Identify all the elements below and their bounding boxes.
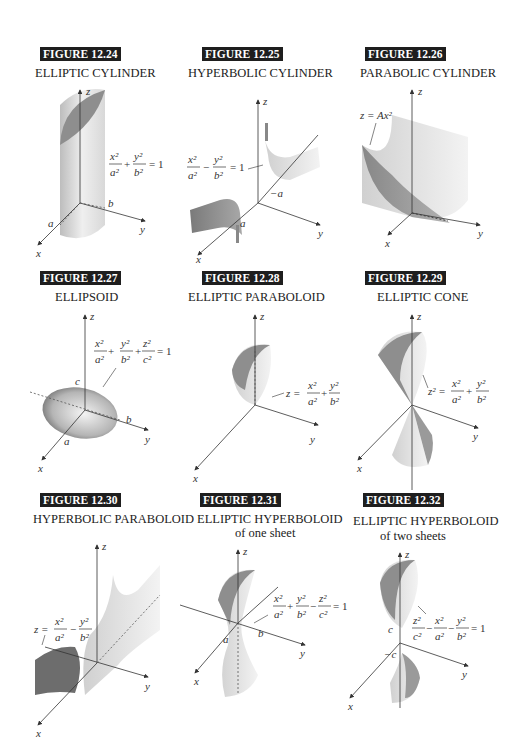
hyperbolic-paraboloid-plot: z y x z = x² a² − y² b² <box>0 535 170 705</box>
equation: z = x² a² + y² b² <box>285 379 340 407</box>
svg-text:b²: b² <box>134 166 144 178</box>
figure-title: ELLIPTIC HYPERBOLOID <box>353 514 498 528</box>
svg-text:b²: b² <box>330 395 340 407</box>
svg-text:z =: z = <box>285 387 300 399</box>
svg-text:z: z <box>259 310 265 322</box>
svg-text:a²: a² <box>55 631 65 643</box>
svg-text:x²: x² <box>187 153 197 165</box>
svg-text:y: y <box>299 647 305 659</box>
svg-text:+: + <box>466 385 472 397</box>
figure-title: HYPERBOLIC CYLINDER <box>188 66 333 80</box>
figure-title: ELLIPTIC CYLINDER <box>35 66 155 80</box>
figure-title: ELLIPTIC CONE <box>377 290 468 304</box>
hyperboloid-one-sheet-plot: z y x a b x² a² + y² b² − z² c² = 1 <box>170 545 340 715</box>
svg-text:−c: −c <box>384 648 396 660</box>
svg-text:z: z <box>101 540 107 552</box>
figure-label: FIGURE 12.29 <box>365 271 446 285</box>
svg-text:x²: x² <box>54 615 64 627</box>
svg-text:x²: x² <box>273 592 283 604</box>
svg-text:x²: x² <box>307 379 317 391</box>
figure-title: HYPERBOLIC PARABOLOID <box>33 512 194 526</box>
equation: z² = x² a² + y² b² <box>427 377 489 405</box>
svg-text:z: z <box>242 545 248 557</box>
svg-text:c: c <box>75 375 80 387</box>
figure-title: ELLIPTIC HYPERBOLOID <box>197 512 342 526</box>
svg-text:y²: y² <box>329 379 339 391</box>
svg-text:x²: x² <box>94 337 104 349</box>
y-axis-label: y <box>139 223 145 235</box>
svg-text:z: z <box>404 548 410 560</box>
svg-text:c²: c² <box>143 353 152 365</box>
svg-text:+: + <box>108 345 114 357</box>
svg-text:c: c <box>388 623 393 635</box>
z-axis-label: z <box>85 85 91 97</box>
svg-text:x²: x² <box>451 377 461 389</box>
figure-label: FIGURE 12.26 <box>365 47 446 61</box>
parabolic-cylinder-plot: z y x z = Ax² <box>340 85 508 245</box>
svg-text:x: x <box>356 462 362 474</box>
svg-text:y: y <box>144 433 150 445</box>
svg-text:b²: b² <box>457 630 467 642</box>
svg-text:y: y <box>309 433 315 445</box>
svg-text:a: a <box>223 633 229 645</box>
hyperbolic-cylinder-plot: z y x a −a x² a² − y² b² = 1 <box>170 85 340 245</box>
svg-text:c²: c² <box>319 608 328 620</box>
svg-text:x: x <box>37 462 43 474</box>
figure-subtitle: of two sheets <box>380 529 446 543</box>
hyperboloid-two-sheets-plot: z y x c −c z² c² − x² a² − y² b² = 1 <box>340 548 508 718</box>
svg-text:y²: y² <box>213 153 223 165</box>
figure-label: FIGURE 12.25 <box>202 47 283 61</box>
svg-text:−: − <box>310 600 316 612</box>
equation: x² a² − y² b² = 1 <box>187 153 244 181</box>
equation: x² a² + y² b² = 1 <box>109 150 163 178</box>
figure-label: FIGURE 12.27 <box>40 271 121 285</box>
svg-text:−: − <box>426 622 432 634</box>
svg-text:z²: z² <box>412 614 421 626</box>
svg-text:−a: −a <box>270 187 283 199</box>
svg-text:x²: x² <box>109 150 119 162</box>
svg-text:y²: y² <box>456 614 466 626</box>
svg-text:−: − <box>70 623 76 635</box>
svg-text:c²: c² <box>413 630 422 642</box>
figure-title: ELLIPTIC PARABOLOID <box>188 290 325 304</box>
svg-text:a²: a² <box>95 353 105 365</box>
equation: x² a² + y² b² + z² c² = 1 <box>94 337 171 365</box>
svg-text:−: − <box>448 622 454 634</box>
svg-text:y²: y² <box>120 337 130 349</box>
figure-title: PARABOLIC CYLINDER <box>360 66 496 80</box>
figure-label: FIGURE 12.32 <box>363 493 444 507</box>
figure-subtitle: of one sheet <box>235 526 295 540</box>
equation: z² c² − x² a² − y² b² = 1 <box>412 614 485 642</box>
svg-text:a²: a² <box>188 169 198 181</box>
svg-text:a: a <box>64 435 70 447</box>
svg-text:y: y <box>477 227 483 239</box>
svg-text:= 1: = 1 <box>149 158 163 170</box>
svg-text:z: z <box>262 95 268 107</box>
svg-text:x: x <box>195 253 201 265</box>
svg-text:a²: a² <box>308 395 318 407</box>
svg-text:b: b <box>258 627 264 639</box>
svg-text:b²: b² <box>477 393 487 405</box>
svg-text:y²: y² <box>79 615 89 627</box>
elliptic-paraboloid-plot: z y x z = x² a² + y² b² <box>170 310 340 470</box>
svg-text:b²: b² <box>214 169 224 181</box>
svg-text:y: y <box>472 430 478 442</box>
ellipsoid-plot: z y x c b a x² a² + y² b² + z² c² = 1 <box>0 310 170 470</box>
svg-text:−: − <box>203 161 209 173</box>
figure-label: FIGURE 12.28 <box>202 271 283 285</box>
svg-text:x: x <box>384 237 390 249</box>
figure-label: FIGURE 12.31 <box>200 493 281 507</box>
x-axis-label: x <box>35 247 41 259</box>
svg-text:a: a <box>240 217 246 229</box>
figure-label: FIGURE 12.30 <box>40 493 121 507</box>
equation: z = Ax² <box>359 109 393 121</box>
svg-text:x: x <box>193 675 199 687</box>
svg-text:+: + <box>135 345 141 357</box>
figure-title: ELLIPSOID <box>55 290 118 304</box>
svg-text:a²: a² <box>452 393 462 405</box>
svg-text:a²: a² <box>274 608 284 620</box>
svg-text:x: x <box>347 700 353 712</box>
svg-text:y²: y² <box>476 377 486 389</box>
svg-text:= 1: = 1 <box>471 622 485 634</box>
equation: x² a² + y² b² − z² c² = 1 <box>273 592 347 620</box>
